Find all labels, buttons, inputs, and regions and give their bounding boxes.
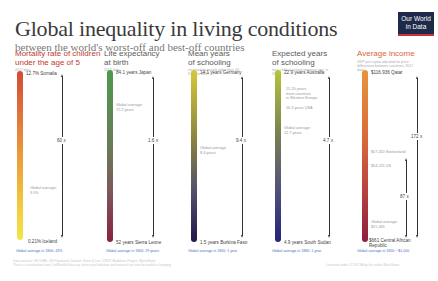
expected-schooling-western-europe: 15-20 yearsmost countriesin Western Euro… bbox=[286, 87, 317, 101]
income-global-average: Global average:$15,469 bbox=[371, 220, 398, 229]
mortality-ratio-arrow bbox=[62, 76, 63, 236]
mean-schooling-bottom-label: 1.5 years Burkina Faso bbox=[200, 240, 247, 245]
expected-schooling-historic-note: Global average in 1880: 1 year bbox=[272, 249, 321, 253]
life-global-average: Global average:72.2 years bbox=[116, 103, 143, 112]
column-title: Mortality rate of children under the age… bbox=[15, 50, 100, 67]
mean-schooling-historic-note: Global average in 1800: 1 year bbox=[188, 249, 237, 253]
income-historic-note: Global average in 1800: ~$1,000 bbox=[357, 249, 409, 253]
expected-schooling-ratio: 4.7 x bbox=[323, 137, 333, 144]
income-bar bbox=[362, 70, 368, 242]
life-ratio: 1.6 x bbox=[148, 137, 158, 144]
life-ratio-arrow bbox=[153, 78, 154, 236]
mean-schooling-ratio-arrow bbox=[242, 78, 243, 236]
life-historic-note: Global average in 1800: 29 years bbox=[106, 249, 159, 253]
mortality-ratio: 60 x bbox=[57, 137, 66, 144]
column-title: Average income bbox=[357, 50, 419, 59]
income-ratio-inner: 87 x bbox=[400, 193, 409, 200]
footer-credit[interactable]: This is a visualization from OurWorldInD… bbox=[13, 263, 172, 267]
mean-schooling-bar bbox=[191, 70, 197, 242]
mortality-historic-note: Global average in 1800: 43% bbox=[16, 249, 62, 253]
income-ratio-outer: 172 x bbox=[411, 133, 422, 140]
column-average-income: Average income GDP per capita adjusted f… bbox=[357, 50, 419, 72]
footer-license[interactable]: Licensed under CC-BY-SA by the author Ma… bbox=[326, 263, 399, 267]
mortality-bottom-label: 0.21% Iceland bbox=[28, 239, 57, 244]
expected-schooling-top-label: 22.9 years Australia bbox=[284, 70, 324, 75]
mortality-bar bbox=[17, 71, 23, 240]
mean-schooling-ratio: 9.4 x bbox=[236, 137, 246, 144]
column-title: Life expectancy at birth bbox=[104, 50, 160, 67]
life-bottom-label: 52 years Sierra Leone bbox=[116, 240, 161, 245]
column-mortality: Mortality rate of children under the age… bbox=[15, 50, 100, 72]
mean-schooling-global-average: Global average:8.4 years bbox=[200, 146, 227, 155]
page-title: Global inequality in living conditions bbox=[15, 16, 337, 42]
column-life-expectancy: Life expectancy at birth 2017 data bbox=[104, 50, 160, 72]
mortality-top-label: 12.7% Somalia bbox=[26, 71, 57, 76]
mean-schooling-top-label: 14.1 years Germany bbox=[200, 70, 242, 75]
column-title: Mean years of schooling bbox=[188, 50, 248, 67]
column-title: Expected years of schooling bbox=[272, 50, 332, 67]
income-top-label: $116,936 Qatar bbox=[371, 70, 403, 75]
expected-schooling-usa: 16.3 years USA bbox=[286, 106, 313, 111]
income-bottom-label: $661 Central AfricanRepublic bbox=[369, 238, 411, 248]
expected-schooling-global-average: Global average:12.7 years bbox=[284, 126, 311, 135]
owid-logo[interactable]: Our World in Data bbox=[398, 12, 434, 36]
expected-schooling-ratio-arrow bbox=[329, 78, 330, 236]
logo-line2: in Data bbox=[398, 23, 434, 31]
mortality-global-average: Global average:3.9% bbox=[30, 186, 57, 195]
expected-schooling-bar bbox=[275, 70, 281, 242]
life-expectancy-bar bbox=[107, 70, 113, 242]
expected-schooling-bottom-label: 4.9 years South Sudan bbox=[284, 240, 331, 245]
income-switzerland-label: $57,410 Switzerland bbox=[371, 150, 405, 155]
income-us-label: $54,225 US bbox=[371, 164, 391, 169]
logo-line1: Our World bbox=[398, 15, 434, 23]
life-top-label: 84.1 years Japan bbox=[116, 70, 151, 75]
income-ratio-arrow-outer bbox=[417, 78, 418, 236]
